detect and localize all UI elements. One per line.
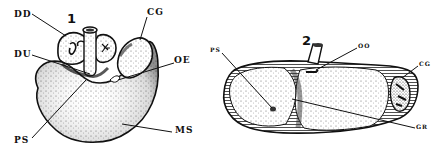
label-gr: GR: [416, 124, 428, 130]
label-oo: OO: [358, 43, 370, 49]
panel-1-drawing: [36, 27, 158, 142]
label-cg-1: CG: [147, 8, 164, 17]
label-cg-2: CG: [419, 61, 431, 67]
panel-1-number: 1: [67, 12, 76, 25]
right-chamber: [295, 67, 388, 130]
label-ps-2: PS: [210, 47, 221, 53]
label-du: DU: [14, 50, 32, 59]
duodenum-tube: [84, 30, 96, 76]
panel-2-drawing: [224, 43, 418, 133]
label-ms: MS: [175, 126, 193, 135]
label-oe: OE: [174, 56, 191, 65]
label-dd: DD: [14, 10, 32, 19]
panel-2-number: 2: [302, 34, 311, 47]
label-ps-1: PS: [14, 136, 29, 145]
